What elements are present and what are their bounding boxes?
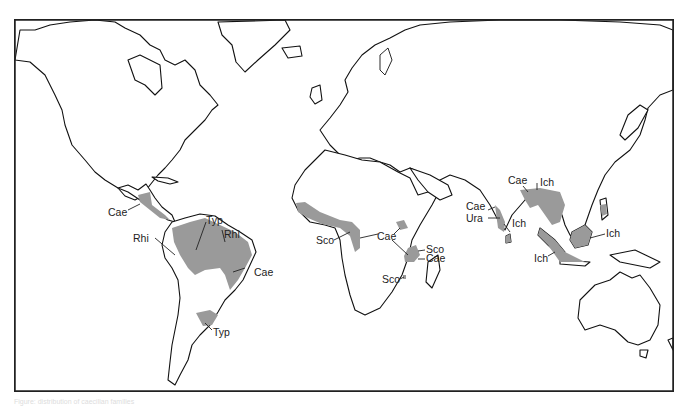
range-se-asia <box>520 188 565 225</box>
label-in-ich: Ich <box>512 217 526 229</box>
label-af-sco-s: Sco <box>382 273 400 285</box>
label-sa-rhi-w: Rhi <box>133 232 149 244</box>
label-sa-rhi-e: Rhi <box>224 228 240 240</box>
world-map: Cae Rhi Typ Rhi Cae Typ Sco Cae Sco Cae … <box>0 0 686 407</box>
label-af-cae: Cae <box>377 230 396 242</box>
label-sa-typ-s: Typ <box>213 326 230 338</box>
label-in-cae: Cae <box>466 200 485 212</box>
figure-caption: Figure: distribution of caecilian famili… <box>14 398 134 405</box>
label-as-cae: Cae <box>508 174 527 186</box>
label-as-ich: Ich <box>540 176 554 188</box>
australia <box>578 272 660 345</box>
label-in-ura: Ura <box>466 212 483 224</box>
label-bo-ich: Ich <box>606 227 620 239</box>
greenland <box>218 20 290 72</box>
label-af-cae-e: Cae <box>426 252 445 264</box>
north-america <box>15 20 218 200</box>
label-sa-typ-n: Typ <box>206 214 223 226</box>
label-af-sco-w: Sco <box>316 234 334 246</box>
label-ca-cae: Cae <box>108 206 127 218</box>
label-sa-cae: Cae <box>254 266 273 278</box>
label-su-ich: Ich <box>534 252 548 264</box>
